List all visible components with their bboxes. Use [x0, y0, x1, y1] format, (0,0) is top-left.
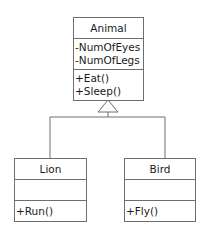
methods-section: +Eat() +Sleep() — [74, 70, 143, 100]
class-animal[interactable]: Animal -NumOfEyes -NumOfLegs +Eat() +Sle… — [73, 17, 144, 101]
method: +Run() — [16, 205, 86, 218]
attribute: -NumOfLegs — [75, 54, 143, 67]
methods-section: +Run() — [15, 201, 86, 221]
class-name: Animal — [74, 18, 143, 39]
method: +Sleep() — [75, 85, 143, 98]
class-lion[interactable]: Lion +Run() — [14, 158, 87, 222]
inheritance-arrow-icon — [98, 100, 118, 112]
method: +Eat() — [75, 72, 143, 85]
class-name: Bird — [125, 159, 195, 180]
class-bird[interactable]: Bird +Fly() — [124, 158, 196, 222]
attributes-section: -NumOfEyes -NumOfLegs — [74, 39, 143, 70]
method: +Fly() — [126, 205, 195, 218]
class-name: Lion — [15, 159, 86, 180]
methods-section: +Fly() — [125, 201, 195, 221]
attribute: -NumOfEyes — [75, 41, 143, 54]
attributes-section — [125, 180, 195, 201]
attributes-section — [15, 180, 86, 201]
